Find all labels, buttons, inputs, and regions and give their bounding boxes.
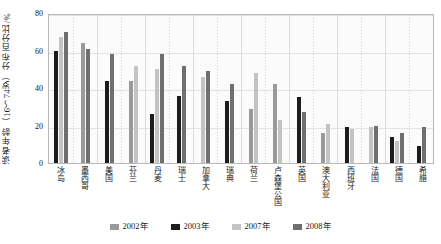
bar [155,69,159,163]
x-tick-label: 德国 [393,166,402,214]
x-tick-cell: 加拿大 [193,166,217,214]
bar [105,81,109,164]
x-tick-cell: 冰岛 [48,166,72,214]
bar [177,96,181,164]
bar [326,124,330,163]
x-tick-label: 丹麦 [152,166,161,214]
bar [81,43,85,163]
x-tick-cell: 法国 [362,166,386,214]
bar [129,81,133,164]
x-tick-label: 芬兰 [128,166,137,214]
bar [350,129,354,163]
legend-label: 2008年 [306,222,332,231]
bar [278,120,282,163]
bar [134,66,138,164]
x-tick-cell: 芬兰 [120,166,144,214]
bar-group [121,15,145,163]
x-tick-label: 荷兰 [249,166,258,214]
y-tick-label: 20 [35,123,43,131]
bar [254,73,258,163]
bar [64,32,68,163]
legend-swatch [110,224,119,230]
bar-group [289,15,313,163]
bar-groups [49,15,433,163]
bar-group [193,15,217,163]
x-axis-labels: 冰岛墨西哥美国芬兰丹麦瑞士加拿大瑞典荷兰卢森堡公国英国澳大利亚西班牙法国德国希腊 [48,166,434,214]
x-tick-label: 瑞士 [176,166,185,214]
bar [369,127,373,163]
bar [400,133,404,163]
x-tick-cell: 澳大利亚 [313,166,337,214]
x-tick-cell: 卢森堡公国 [265,166,289,214]
x-tick-label: 美国 [104,166,113,214]
x-tick-label: 墨西哥 [80,166,89,214]
x-tick-cell: 德国 [386,166,410,214]
bar-group [97,15,121,163]
legend-item[interactable]: 2002年 [110,222,149,231]
x-tick-cell: 墨西哥 [72,166,96,214]
bar-group [73,15,97,163]
x-tick-label: 法国 [369,166,378,214]
x-tick-label: 澳大利亚 [321,166,330,214]
bar [374,126,378,164]
x-tick-label: 西班牙 [345,166,354,214]
bar-group [241,15,265,163]
bar [249,109,253,163]
x-tick-label: 希腊 [417,166,426,214]
plot-canvas [48,14,434,164]
x-tick-cell: 英国 [289,166,313,214]
bar-group [169,15,193,163]
bar [395,141,399,164]
x-tick-label: 英国 [297,166,306,214]
bar [150,114,154,163]
x-tick-cell: 西班牙 [338,166,362,214]
bar [297,97,301,163]
bar [230,84,234,163]
x-tick-cell: 丹麦 [145,166,169,214]
bar-group [409,15,433,163]
bar-group [145,15,169,163]
legend-swatch [293,224,302,230]
y-axis-ticks: 020406080 [22,14,46,164]
legend-item[interactable]: 2007年 [232,222,271,231]
legend-label: 2003年 [184,222,210,231]
bar [422,127,426,163]
bar [302,112,306,163]
x-tick-cell: 瑞士 [169,166,193,214]
x-tick-label: 冰岛 [56,166,65,214]
x-tick-label: 加拿大 [200,166,209,214]
y-axis-title: 读者年龄（16～74岁）分布百分比/% [0,12,14,164]
legend-swatch [232,224,241,230]
y-tick-label: 80 [35,10,43,18]
chart-legend: 2002年2003年2007年2008年 [0,222,441,231]
bar-group [337,15,361,163]
legend-item[interactable]: 2008年 [293,222,332,231]
y-tick-label: 0 [39,160,43,168]
bar [182,66,186,164]
bar [345,127,349,163]
bar-group [361,15,385,163]
chart-page: 读者年龄（16～74岁）分布百分比/% 020406080 冰岛墨西哥美国芬兰丹… [0,0,441,244]
x-tick-cell: 美国 [96,166,120,214]
x-tick-cell: 荷兰 [241,166,265,214]
bar-group [265,15,289,163]
bar-group [313,15,337,163]
bar [54,51,58,164]
bar-group [49,15,73,163]
bar [59,37,63,163]
bar [390,137,394,163]
legend-swatch [171,224,180,230]
bar-group [217,15,241,163]
y-tick-label: 40 [35,85,43,93]
legend-item[interactable]: 2003年 [171,222,210,231]
bar [417,146,421,163]
bar [225,101,229,163]
bar [86,49,90,163]
x-tick-cell: 瑞典 [217,166,241,214]
bar [321,133,325,163]
bar-group [385,15,409,163]
bar [201,77,205,163]
bar [110,54,114,163]
x-tick-label: 卢森堡公国 [273,166,282,214]
x-tick-label: 瑞典 [224,166,233,214]
